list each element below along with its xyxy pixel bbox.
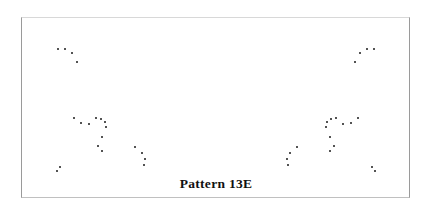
pattern-dot bbox=[287, 164, 289, 166]
pattern-dot bbox=[286, 158, 288, 160]
pattern-dot bbox=[296, 146, 298, 148]
pattern-dot bbox=[59, 166, 61, 168]
pattern-dot bbox=[325, 126, 327, 128]
pattern-dot bbox=[350, 122, 352, 124]
pattern-dot bbox=[73, 117, 75, 119]
figure-caption: Pattern 13E bbox=[0, 176, 432, 192]
pattern-dot bbox=[373, 48, 375, 50]
pattern-dot bbox=[289, 152, 291, 154]
pattern-dot bbox=[342, 123, 344, 125]
pattern-dot bbox=[100, 118, 102, 120]
pattern-dot bbox=[134, 146, 136, 148]
pattern-dot bbox=[354, 61, 356, 63]
pattern-dot bbox=[80, 122, 82, 124]
pattern-dot bbox=[88, 123, 90, 125]
pattern-dot bbox=[366, 48, 368, 50]
pattern-dot bbox=[144, 158, 146, 160]
pattern-dot bbox=[374, 170, 376, 172]
pattern-dot bbox=[329, 136, 331, 138]
pattern-dot bbox=[57, 48, 59, 50]
pattern-dot bbox=[101, 136, 103, 138]
pattern-figure-page: Pattern 13E bbox=[0, 0, 432, 214]
pattern-dot bbox=[326, 121, 328, 123]
pattern-dot bbox=[56, 170, 58, 172]
pattern-dot bbox=[95, 117, 97, 119]
pattern-dot bbox=[359, 52, 361, 54]
pattern-dot bbox=[333, 145, 335, 147]
pattern-dot bbox=[371, 166, 373, 168]
pattern-dot bbox=[357, 117, 359, 119]
pattern-dot bbox=[76, 61, 78, 63]
pattern-dot bbox=[64, 48, 66, 50]
pattern-dot bbox=[71, 52, 73, 54]
pattern-dot bbox=[141, 152, 143, 154]
pattern-dot bbox=[143, 164, 145, 166]
pattern-dot bbox=[330, 118, 332, 120]
pattern-dot bbox=[97, 145, 99, 147]
pattern-dot bbox=[335, 117, 337, 119]
pattern-dot bbox=[329, 150, 331, 152]
pattern-dot bbox=[105, 126, 107, 128]
pattern-dot bbox=[104, 121, 106, 123]
pattern-dot bbox=[101, 150, 103, 152]
